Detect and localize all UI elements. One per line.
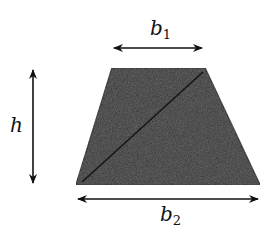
h-label: h [10, 113, 23, 137]
b1-label: b1 [150, 16, 171, 42]
trapezoid-shape [76, 68, 260, 185]
b2-label: b2 [160, 202, 181, 228]
trapezoid-diagram: b1 h b2 [0, 0, 270, 236]
